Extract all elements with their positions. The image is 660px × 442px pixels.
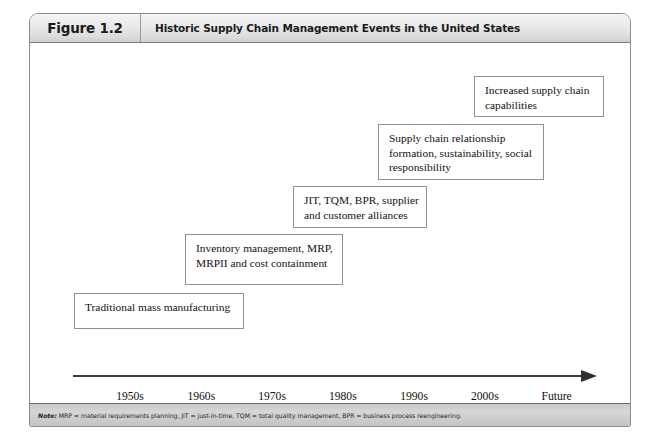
event-box: Inventory management, MRP,MRPII and cost… — [185, 234, 343, 285]
timeline-line — [73, 375, 585, 377]
event-box-line: Supply chain relationship — [389, 131, 534, 146]
event-box-line: formation, sustainability, social — [389, 146, 534, 161]
event-box-line: Inventory management, MRP, — [196, 241, 333, 256]
figure-number-cell: Figure 1.2 — [30, 14, 141, 42]
event-box-line: Increased supply chain — [485, 83, 594, 98]
timeline-canvas: Traditional mass manufacturingInventory … — [30, 43, 630, 403]
event-box-line: and customer alliances — [304, 208, 417, 223]
event-box-line: MRPII and cost containment — [196, 256, 333, 271]
timeline-tick-label: Future — [542, 390, 572, 403]
figure-title-cell: Historic Supply Chain Management Events … — [141, 14, 630, 42]
figure-title: Historic Supply Chain Management Events … — [155, 22, 520, 34]
event-box-line: responsibility — [389, 160, 534, 175]
timeline-tick-label: 1960s — [187, 390, 215, 403]
timeline-tick-label: 1980s — [329, 390, 357, 403]
event-box-line: Traditional mass manufacturing — [85, 300, 234, 315]
figure-note-text: Note: MRP = material requirements planni… — [38, 412, 462, 419]
timeline-tick-label: 1950s — [116, 390, 144, 403]
event-box: Supply chain relationshipformation, sust… — [378, 124, 544, 180]
figure-note-bar: Note: MRP = material requirements planni… — [30, 403, 630, 426]
event-box-line: capabilities — [485, 98, 594, 113]
event-box: Traditional mass manufacturing — [74, 293, 244, 329]
timeline-tick-label: 1990s — [400, 390, 428, 403]
figure-note-prefix: Note: — [38, 412, 57, 419]
timeline-arrow-icon — [581, 370, 597, 382]
timeline-tick-label: 1970s — [258, 390, 286, 403]
figure-note-body: MRP = material requirements planning, JI… — [57, 412, 462, 419]
event-box-line: JIT, TQM, BPR, supplier — [304, 193, 417, 208]
figure-header: Figure 1.2 Historic Supply Chain Managem… — [30, 14, 630, 43]
figure-number-label: Figure 1.2 — [47, 20, 123, 36]
figure-frame: Figure 1.2 Historic Supply Chain Managem… — [29, 13, 631, 427]
event-box: JIT, TQM, BPR, supplierand customer alli… — [293, 186, 427, 228]
event-box: Increased supply chaincapabilities — [474, 76, 604, 117]
timeline-axis — [73, 370, 601, 382]
timeline-tick-label: 2000s — [471, 390, 499, 403]
